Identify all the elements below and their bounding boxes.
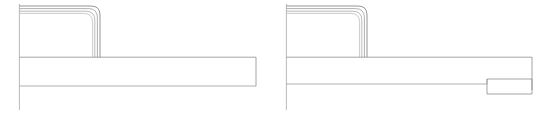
drawing-canvas	[0, 0, 547, 125]
line-drawing-svg	[0, 0, 547, 125]
canvas-background	[0, 0, 547, 125]
